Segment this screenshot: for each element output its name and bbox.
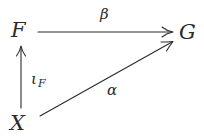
- label-alpha: α: [107, 83, 117, 98]
- arrow-beta: [38, 27, 173, 37]
- commutative-diagram: F G X β ιF α: [0, 0, 204, 138]
- arrow-alpha: [40, 42, 173, 117]
- node-x: X: [10, 113, 25, 134]
- label-iota: ι: [31, 70, 37, 88]
- node-f: F: [11, 20, 26, 41]
- label-iota-subscript: F: [38, 77, 46, 90]
- label-iota-f: ιF: [31, 72, 46, 87]
- arrow-iota-f: [17, 46, 26, 108]
- node-g: G: [179, 22, 196, 43]
- label-beta: β: [100, 7, 109, 22]
